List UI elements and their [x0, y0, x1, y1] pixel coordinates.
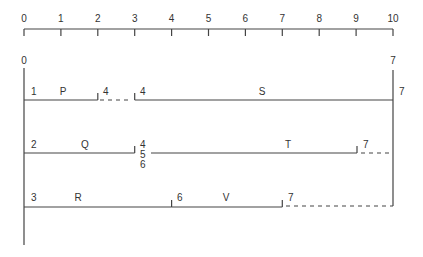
node-label: 4 [103, 86, 109, 97]
node-label: 7 [288, 192, 294, 203]
row-2: 2 Q 4 5 6 T 7 [24, 139, 393, 170]
scale-tick-label: 2 [95, 13, 101, 24]
node-label: 2 [31, 139, 37, 150]
scale-tick-label: 0 [21, 13, 27, 24]
scale-tick-label: 3 [132, 13, 138, 24]
activity-label-p: P [60, 86, 67, 97]
scale-tick-label: 7 [280, 13, 286, 24]
node-label: 3 [31, 192, 37, 203]
scale-tick-label: 1 [58, 13, 64, 24]
node-label: 6 [140, 159, 146, 170]
activity-label-v: V [223, 192, 230, 203]
node-label: 1 [31, 86, 37, 97]
node-label: 4 [140, 86, 146, 97]
activity-label-s: S [259, 86, 266, 97]
start-node-label: 0 [21, 55, 27, 66]
scale-tick-label: 9 [353, 13, 359, 24]
activity-network-diagram: 0 1 2 3 4 5 6 7 8 9 10 0 7 1 P 4 4 S 7 2 [0, 0, 423, 257]
activity-label-q: Q [81, 139, 89, 150]
scale-tick-label: 8 [316, 13, 322, 24]
row-3: 3 R 6 V 7 [24, 192, 393, 207]
node-label: 6 [177, 192, 183, 203]
node-label: 7 [399, 86, 405, 97]
time-scale: 0 1 2 3 4 5 6 7 8 9 10 [21, 13, 399, 36]
scale-tick-label: 10 [387, 13, 399, 24]
scale-tick-label: 5 [206, 13, 212, 24]
scale-tick-label: 6 [243, 13, 249, 24]
activity-label-r: R [74, 192, 81, 203]
row-1: 1 P 4 4 S 7 [24, 86, 405, 100]
end-node-label: 7 [390, 55, 396, 66]
activity-label-t: T [285, 139, 291, 150]
node-label: 7 [363, 139, 369, 150]
scale-tick-label: 4 [169, 13, 175, 24]
